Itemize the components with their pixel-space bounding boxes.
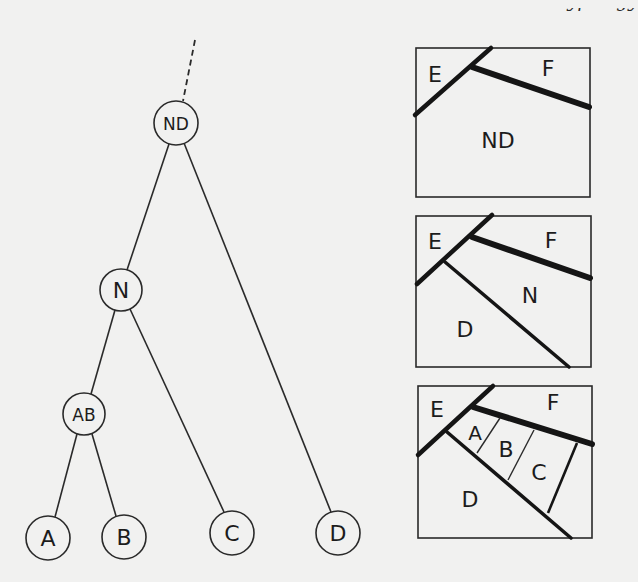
fault-n-d-line	[445, 262, 569, 367]
panel-1-label-e: E	[428, 62, 442, 87]
node-ab: AB	[63, 393, 105, 435]
fault-f-line	[473, 407, 592, 444]
panel-2-frame	[416, 216, 591, 367]
node-d-label: D	[330, 521, 347, 546]
node-c: C	[210, 511, 254, 555]
node-ab-label: AB	[72, 405, 95, 425]
phylogenetic-tree: ND N AB A B C	[26, 40, 360, 560]
node-nd-label: ND	[163, 114, 189, 134]
node-c-label: C	[224, 521, 239, 546]
panel-stage-2: E F N D	[416, 215, 591, 367]
node-n: N	[100, 269, 142, 311]
panel-3-frame	[418, 386, 592, 538]
panel-3-label-e: E	[430, 397, 444, 422]
panel-1-label-f: F	[542, 56, 555, 81]
edge-n-c	[130, 309, 224, 512]
node-b: B	[102, 515, 146, 559]
edge-nd-d	[184, 143, 331, 512]
edge-nd-n	[127, 144, 169, 270]
fault-e-line	[415, 48, 491, 115]
edge-n-ab	[91, 310, 115, 394]
panel-1-label-nd: ND	[481, 128, 514, 153]
panel-1-frame	[416, 48, 590, 197]
panel-2-label-f: F	[545, 228, 558, 253]
fault-f-line	[472, 237, 590, 278]
panel-stage-3: E F A B C D	[418, 386, 592, 538]
edge-ab-a	[55, 434, 77, 517]
edge-ab-b	[92, 434, 116, 516]
panel-2-label-n: N	[522, 283, 538, 308]
node-nd: ND	[154, 101, 198, 145]
ancestor-branch-dashed	[183, 40, 195, 101]
node-a: A	[26, 516, 70, 560]
panel-3-label-d: D	[462, 487, 479, 512]
node-a-label: A	[40, 526, 55, 551]
panel-3-label-b: B	[498, 437, 513, 462]
panel-stage-1: E F ND	[415, 48, 590, 197]
panel-2-label-d: D	[457, 317, 474, 342]
fault-f-line	[472, 67, 589, 107]
panel-3-label-a: A	[468, 421, 482, 445]
node-d: D	[316, 511, 360, 555]
panel-3-label-f: F	[547, 390, 560, 415]
node-n-label: N	[113, 278, 129, 303]
panel-3-label-c: C	[531, 460, 546, 485]
panel-2-label-e: E	[428, 229, 442, 254]
node-b-label: B	[116, 525, 131, 550]
divider-c-outer	[548, 443, 577, 513]
